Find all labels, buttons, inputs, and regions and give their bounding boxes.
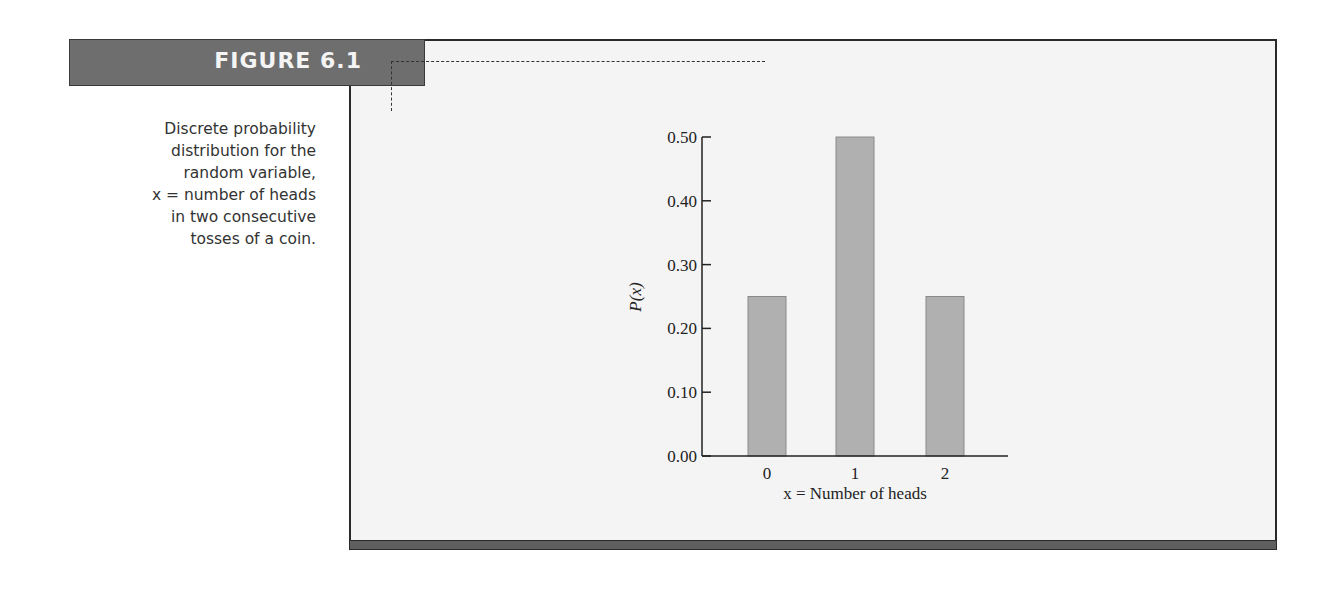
bars-group — [748, 137, 964, 456]
y-tick-label: 0.00 — [667, 447, 697, 466]
y-tick-label: 0.20 — [667, 319, 697, 338]
y-axis-label: P(x) — [626, 282, 645, 313]
y-tick-label: 0.40 — [667, 192, 697, 211]
x-tick-label: 0 — [763, 464, 772, 483]
x-axis-label: x = Number of heads — [783, 484, 927, 503]
bar-0 — [748, 297, 786, 457]
bar-chart: 0.000.100.200.300.400.50 012 x = Number … — [0, 0, 1335, 589]
y-tick-label: 0.10 — [667, 383, 697, 402]
x-tick-label: 2 — [941, 464, 950, 483]
x-tick-label: 1 — [851, 464, 860, 483]
y-tick-label: 0.50 — [667, 128, 697, 147]
bar-1 — [836, 137, 874, 456]
y-tick-label: 0.30 — [667, 256, 697, 275]
y-ticks-group: 0.000.100.200.300.400.50 — [667, 128, 711, 466]
bar-2 — [926, 297, 964, 457]
x-ticks-group: 012 — [763, 464, 950, 483]
